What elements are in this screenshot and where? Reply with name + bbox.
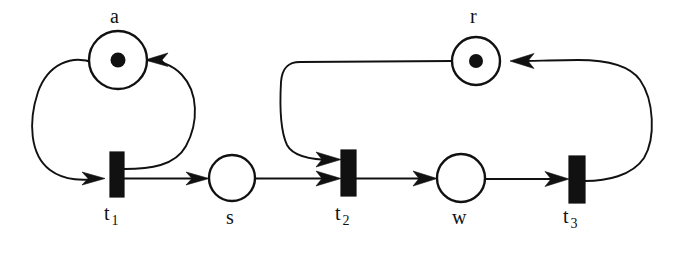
arc-w-to-t3	[485, 172, 569, 187]
transition-t2-label-base: t	[335, 202, 341, 224]
place-s-circle[interactable]	[209, 155, 255, 201]
arc-t2-to-w	[356, 171, 437, 186]
transition-t1-label-subscript: 1	[112, 213, 119, 228]
transition-t3-label-subscript: 3	[571, 216, 578, 231]
place-a[interactable]	[89, 31, 147, 89]
place-r[interactable]	[452, 37, 500, 85]
transition-t3-label-base: t	[563, 205, 569, 227]
arc-s-to-t2	[255, 171, 341, 186]
transition-t2-label-subscript: 2	[343, 213, 350, 228]
arc-a-to-t1	[32, 60, 105, 185]
transition-t1-bar[interactable]	[110, 152, 124, 197]
place-r-label: r	[470, 6, 477, 26]
place-s-label: s	[226, 207, 234, 227]
transition-t1-label-base: t	[104, 202, 110, 224]
place-a-label: a	[110, 6, 119, 26]
transition-t3-bar[interactable]	[569, 156, 585, 203]
arc-t1-to-a-arrowhead	[145, 53, 168, 67]
place-r-token	[469, 54, 483, 68]
transition-t1-label: t1	[104, 203, 117, 223]
arc-a-to-t1-line	[32, 60, 99, 180]
arc-a-to-t1-arrowhead	[82, 172, 105, 185]
place-w-label: w	[452, 207, 466, 227]
arc-t1-to-s	[124, 172, 209, 185]
transition-t3-label: t3	[563, 206, 576, 226]
place-a-token	[111, 53, 126, 68]
transition-t2-label: t2	[335, 203, 348, 223]
place-w[interactable]	[437, 154, 485, 202]
petri-net-diagram: a s r w t1 t2 t3	[0, 0, 677, 253]
place-w-circle[interactable]	[437, 154, 485, 202]
arc-r-to-t2	[281, 61, 452, 167]
arc-r-to-t2-line	[281, 61, 452, 160]
transition-t2-bar[interactable]	[341, 150, 356, 196]
place-s[interactable]	[209, 155, 255, 201]
